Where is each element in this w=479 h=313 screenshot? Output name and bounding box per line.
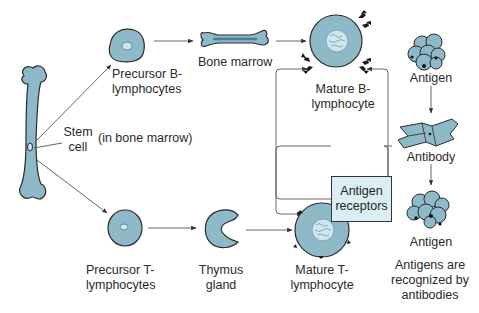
thymus-gland-icon (205, 210, 238, 248)
antigen-receptors-box: Antigen receptors (331, 176, 392, 222)
stem-cell-label: Stem cell (58, 125, 98, 155)
lymphocyte-development-diagram: Precursor B- lymphocytes Bone marrow Mat… (0, 0, 479, 313)
stem-cell-icon (28, 143, 33, 151)
mature-b-label: Mature B- lymphocyte (308, 82, 378, 112)
precursor-t-cell-icon (108, 210, 142, 246)
antigen-top-label: Antigen (401, 71, 461, 86)
precursor-b-label: Precursor B- lymphocytes (112, 67, 192, 97)
bone-marrow-icon (201, 30, 268, 46)
antibody-label: Antibody (396, 150, 466, 165)
antigens-caption: Antigens are recognized by antibodies (382, 258, 478, 303)
antigen-cluster-icon (408, 34, 445, 70)
thymus-gland-label: Thymus gland (196, 263, 246, 293)
arrow-femur-to-precursor-t (37, 160, 107, 213)
in-bone-marrow-label: (in bone marrow) (98, 131, 208, 146)
bone-marrow-label: Bone marrow (198, 55, 278, 70)
precursor-t-label: Precursor T- lymphocytes (86, 263, 166, 293)
antigen-bottom-label: Antigen (401, 235, 461, 250)
antigen-cluster-icon-bottom (407, 191, 449, 228)
mature-t-label: Mature T- lymphocyte (282, 263, 362, 293)
mature-b-lymphocyte-icon (301, 10, 371, 74)
precursor-b-cell-icon (109, 29, 144, 62)
antibody-icon (398, 119, 458, 148)
femur-bone-icon (20, 66, 47, 199)
